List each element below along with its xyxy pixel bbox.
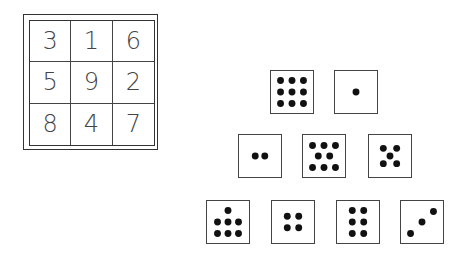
magic-square-cell: 3 — [30, 21, 71, 62]
die-pip — [360, 219, 367, 226]
die-pip — [295, 213, 302, 220]
die-pip — [309, 142, 316, 149]
die-pip — [235, 219, 242, 226]
die-6 — [336, 200, 380, 244]
die-pip — [326, 153, 333, 160]
die-pip — [321, 142, 328, 149]
die-pip — [430, 208, 437, 215]
die-pip — [289, 89, 296, 96]
magic-square-cell: 5 — [30, 62, 71, 103]
die-8 — [302, 134, 346, 178]
die-pip — [407, 230, 414, 237]
die-pip — [419, 219, 426, 226]
die-pip — [387, 153, 394, 160]
die-pip — [353, 89, 360, 96]
magic-square-cell: 7 — [113, 104, 154, 145]
magic-square-cell: 6 — [113, 21, 154, 62]
die-pip — [393, 145, 400, 152]
magic-square-cell: 9 — [71, 62, 112, 103]
magic-square-cell: 2 — [113, 62, 154, 103]
magic-square-cell: 4 — [71, 104, 112, 145]
die-pip — [332, 142, 339, 149]
die-pip — [225, 230, 232, 237]
die-pip — [214, 219, 221, 226]
die-5 — [368, 134, 412, 178]
die-pip — [360, 207, 367, 214]
die-pip — [214, 230, 221, 237]
die-pip — [277, 100, 284, 107]
die-pip — [349, 207, 356, 214]
die-3 — [400, 200, 444, 244]
die-pip — [393, 160, 400, 167]
die-pip — [225, 219, 232, 226]
die-pip — [349, 230, 356, 237]
die-pip — [284, 224, 291, 231]
magic-square: 316592847 — [29, 20, 155, 146]
die-pip — [289, 100, 296, 107]
die-pip — [235, 230, 242, 237]
die-9 — [270, 70, 314, 114]
magic-square-cell: 1 — [71, 21, 112, 62]
die-pip — [277, 89, 284, 96]
die-pip — [277, 77, 284, 84]
magic-square-cell: 8 — [30, 104, 71, 145]
die-pip — [360, 230, 367, 237]
die-pip — [300, 77, 307, 84]
die-pip — [300, 89, 307, 96]
die-pip — [332, 164, 339, 171]
die-pip — [252, 153, 259, 160]
die-pip — [261, 153, 268, 160]
die-7 — [206, 200, 250, 244]
die-pip — [380, 145, 387, 152]
die-pip — [309, 164, 316, 171]
die-2 — [238, 134, 282, 178]
die-pip — [289, 77, 296, 84]
die-pip — [315, 153, 322, 160]
die-pip — [321, 164, 328, 171]
die-pip — [380, 160, 387, 167]
die-pip — [225, 207, 232, 214]
die-4 — [271, 200, 315, 244]
die-pip — [300, 100, 307, 107]
die-1 — [334, 70, 378, 114]
die-pip — [284, 213, 291, 220]
die-pip — [349, 219, 356, 226]
die-pip — [295, 224, 302, 231]
